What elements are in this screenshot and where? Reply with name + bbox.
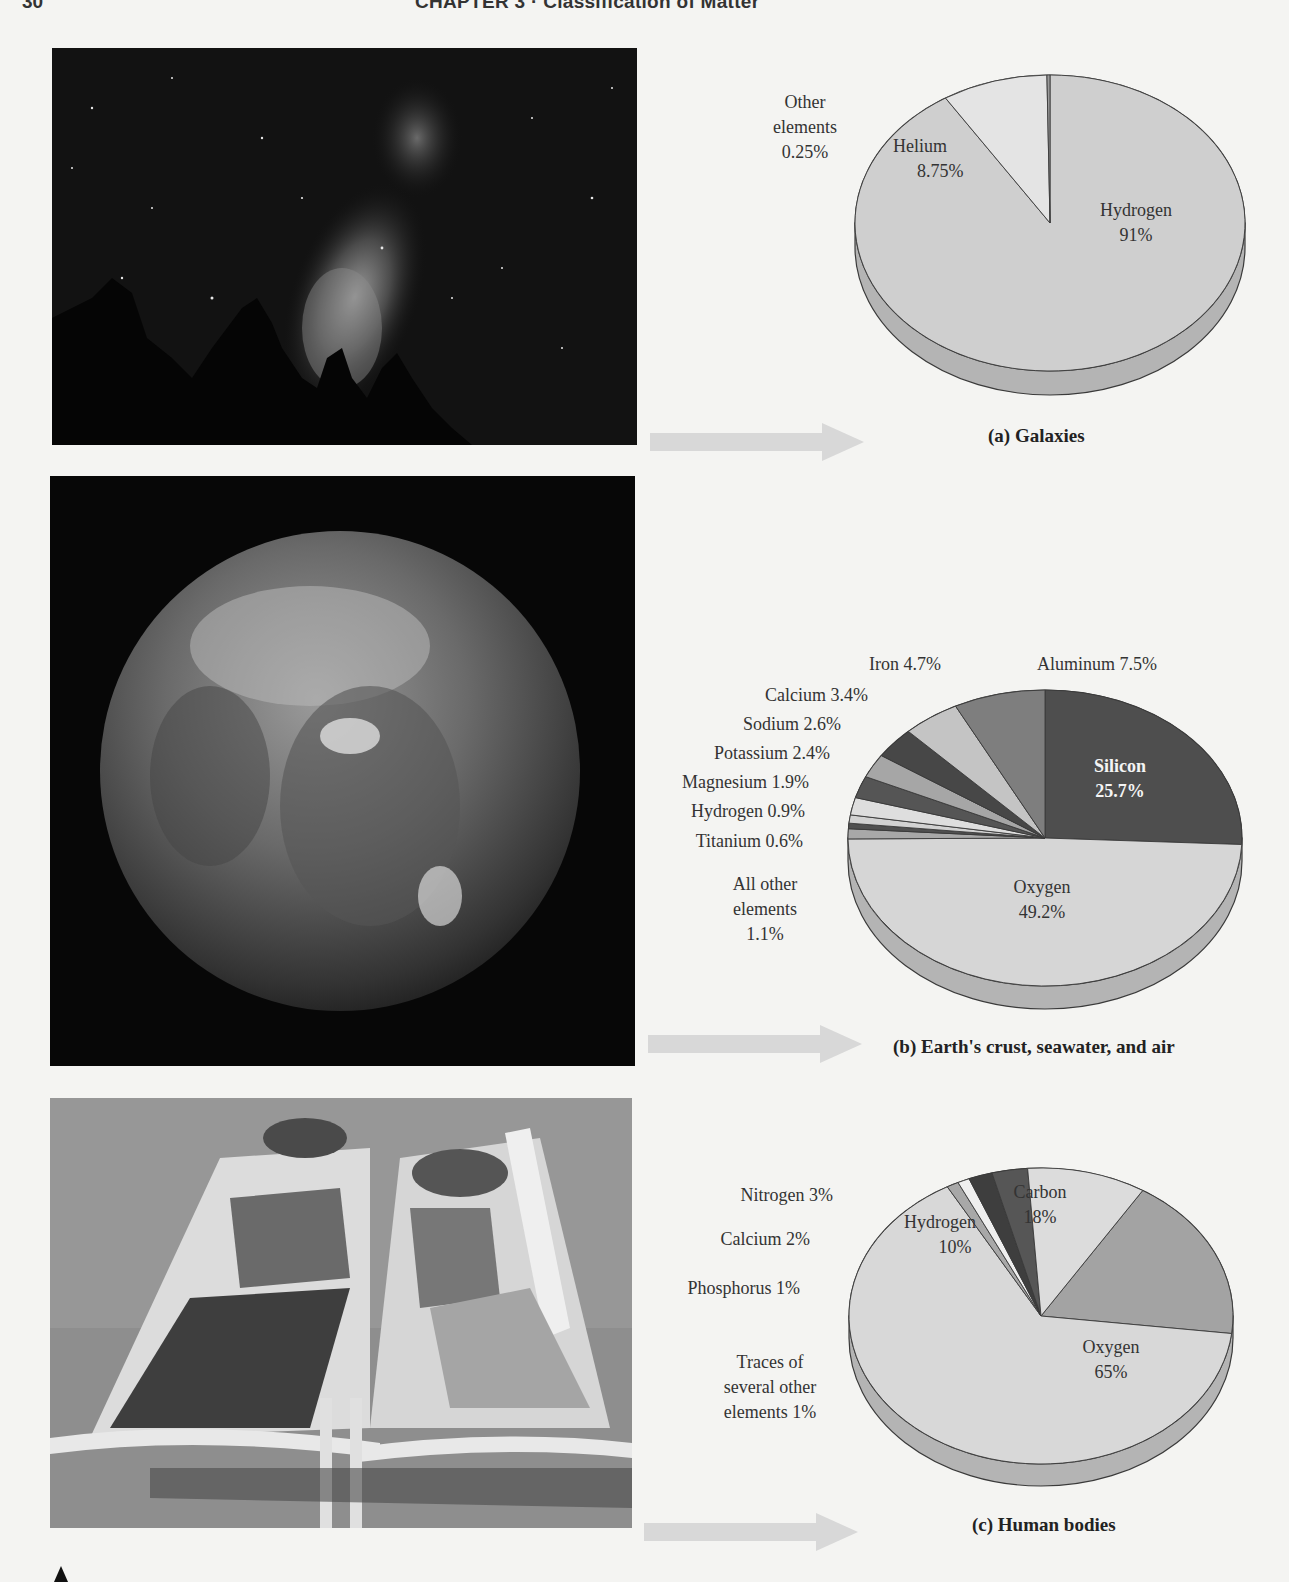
label-b-aluminum: Aluminum 7.5%	[1037, 652, 1157, 677]
label-text: elements 1%	[705, 1400, 835, 1425]
label-text: elements	[770, 115, 840, 140]
label-b-magnesium: Magnesium 1.9%	[650, 770, 809, 795]
pie-chart-1	[848, 690, 1242, 1009]
label-value: 25.7%	[1070, 779, 1170, 804]
label-c-oxygen: Oxygen 65%	[1056, 1335, 1166, 1385]
label-text: All other	[715, 872, 815, 897]
label-c-phosphorus: Phosphorus 1%	[660, 1276, 800, 1301]
label-value: 1.1%	[715, 922, 815, 947]
label-text: Helium	[893, 134, 964, 159]
label-c-traces: Traces of several other elements 1%	[705, 1350, 835, 1425]
label-a-helium: Helium 8.75%	[893, 134, 964, 184]
label-a-other: Other elements 0.25%	[770, 90, 840, 165]
label-b-iron: Iron 4.7%	[869, 652, 941, 677]
label-text: Carbon	[985, 1180, 1095, 1205]
label-a-hydrogen: Hydrogen 91%	[1086, 198, 1186, 248]
label-text: Oxygen	[992, 875, 1092, 900]
label-b-sodium: Sodium 2.6%	[700, 712, 841, 737]
label-text: several other	[705, 1375, 835, 1400]
label-value: 49.2%	[992, 900, 1092, 925]
label-c-calcium: Calcium 2%	[690, 1227, 810, 1252]
label-value: 10%	[885, 1235, 995, 1260]
label-c-hydrogen: Hydrogen 10%	[885, 1210, 995, 1260]
caption-a: (a) Galaxies	[988, 425, 1085, 447]
caption-c: (c) Human bodies	[972, 1514, 1116, 1536]
label-text: Traces of	[705, 1350, 835, 1375]
label-value: 65%	[1056, 1360, 1166, 1385]
label-text: Silicon	[1070, 754, 1170, 779]
pie-chart-0	[855, 75, 1245, 395]
label-value: 91%	[1086, 223, 1186, 248]
label-text: Hydrogen	[885, 1210, 995, 1235]
caption-b: (b) Earth's crust, seawater, and air	[893, 1036, 1175, 1058]
label-b-oxygen: Oxygen 49.2%	[992, 875, 1092, 925]
label-c-nitrogen: Nitrogen 3%	[690, 1183, 833, 1208]
label-b-silicon: Silicon 25.7%	[1070, 754, 1170, 804]
label-b-potassium: Potassium 2.4%	[660, 741, 830, 766]
label-text: elements	[715, 897, 815, 922]
label-b-all-other: All other elements 1.1%	[715, 872, 815, 947]
label-value: 8.75%	[893, 159, 964, 184]
label-b-hydrogen: Hydrogen 0.9%	[650, 799, 805, 824]
label-value: 18%	[985, 1205, 1095, 1230]
label-b-calcium: Calcium 3.4%	[700, 683, 868, 708]
label-b-titanium: Titanium 0.6%	[650, 829, 803, 854]
label-value: 0.25%	[770, 140, 840, 165]
figure-marker-triangle-icon	[54, 1566, 68, 1582]
label-text: Other	[770, 90, 840, 115]
label-text: Oxygen	[1056, 1335, 1166, 1360]
label-c-carbon: Carbon 18%	[985, 1180, 1095, 1230]
label-text: Hydrogen	[1086, 198, 1186, 223]
